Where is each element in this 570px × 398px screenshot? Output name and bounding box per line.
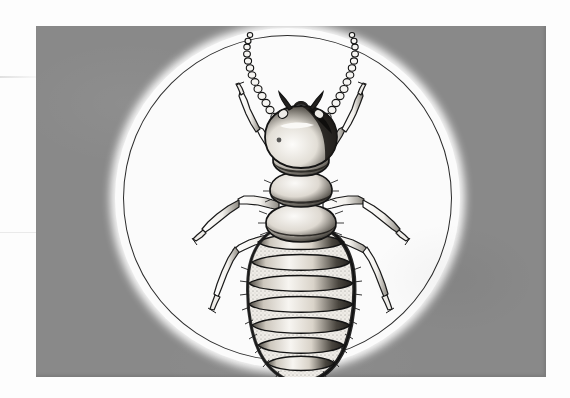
scan-seam-artifact-secondary — [0, 232, 38, 233]
scanned-page — [0, 0, 570, 398]
vignette-ink-rule — [123, 35, 452, 361]
gray-plate — [36, 26, 546, 377]
scan-seam-artifact — [0, 76, 40, 78]
